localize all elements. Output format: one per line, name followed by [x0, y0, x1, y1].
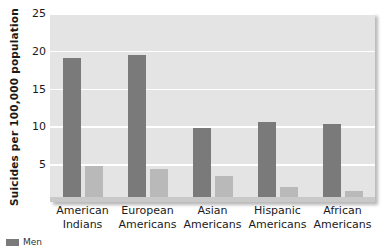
x-category-label: AsianAmericans: [180, 204, 245, 231]
y-tick-label: 25: [22, 8, 46, 19]
plot-area: [50, 13, 375, 202]
plot-baseline-shadow: [50, 197, 375, 202]
x-category-label: AfricanAmericans: [310, 204, 375, 231]
bar: [63, 58, 81, 202]
x-category-label-line: Americans: [245, 218, 310, 232]
bar-group: [128, 13, 168, 202]
x-category-label: HispanicAmericans: [245, 204, 310, 231]
suicide-rate-bar-chart: Suicides per 100,000 population 25201510…: [0, 0, 389, 246]
y-axis-tick-labels: 252015105: [22, 0, 46, 200]
y-tick-label: 20: [22, 45, 46, 56]
x-category-label: AmericanIndians: [50, 204, 115, 231]
bar-group: [323, 13, 363, 202]
x-category-label-line: Americans: [180, 218, 245, 232]
bar: [258, 122, 276, 202]
x-axis-category-labels: AmericanIndiansEuropeanAmericansAsianAme…: [50, 204, 375, 238]
x-category-label-line: Americans: [115, 218, 180, 232]
x-category-label-line: Americans: [310, 218, 375, 232]
bar-group: [193, 13, 233, 202]
bar-group: [258, 13, 298, 202]
x-category-label-line: American: [50, 204, 115, 218]
legend-swatch: [6, 239, 19, 246]
bar-group: [63, 13, 103, 202]
x-category-label-line: European: [115, 204, 180, 218]
legend-item: Men: [6, 238, 42, 246]
x-category-label-line: Indians: [50, 218, 115, 232]
x-category-label-line: Asian: [180, 204, 245, 218]
bar: [128, 55, 146, 202]
y-tick-label: 15: [22, 83, 46, 94]
chart-legend: Men: [6, 238, 42, 246]
legend-label: Men: [23, 238, 42, 246]
x-category-label: EuropeanAmericans: [115, 204, 180, 231]
x-category-label-line: African: [310, 204, 375, 218]
y-tick-label: 10: [22, 121, 46, 132]
bar: [193, 128, 211, 202]
y-axis-title: Suicides per 100,000 population: [8, 7, 20, 207]
x-category-label-line: Hispanic: [245, 204, 310, 218]
y-tick-label: 5: [22, 159, 46, 170]
bar: [323, 124, 341, 202]
